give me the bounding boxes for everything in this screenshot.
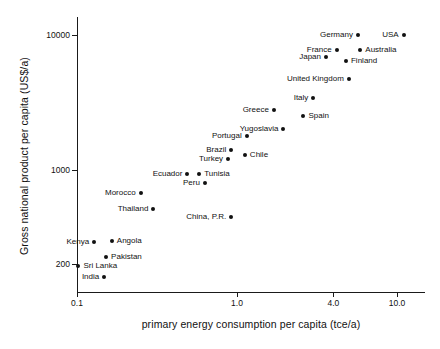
data-point[interactable] bbox=[76, 264, 80, 268]
data-point-label: China, P.R. bbox=[186, 213, 226, 221]
x-axis-title: primary energy consumption per capita (t… bbox=[77, 318, 425, 330]
plot-area: 100001000200 0.11.04.010.0 USAGermanyAus… bbox=[77, 17, 425, 292]
data-point[interactable] bbox=[311, 96, 315, 100]
data-point[interactable] bbox=[197, 172, 201, 176]
data-point-label: Sri Lanka bbox=[83, 262, 117, 270]
data-point-label: Angola bbox=[117, 237, 142, 245]
y-tick-mark bbox=[72, 170, 78, 171]
y-tick-mark bbox=[72, 35, 78, 36]
data-point-label: Kenya bbox=[66, 238, 89, 246]
x-axis-line bbox=[77, 292, 425, 293]
scatter-chart-figure: 100001000200 0.11.04.010.0 USAGermanyAus… bbox=[0, 0, 440, 349]
data-point[interactable] bbox=[110, 239, 114, 243]
y-tick-label: 200 bbox=[56, 260, 70, 269]
data-point[interactable] bbox=[344, 59, 348, 63]
data-point[interactable] bbox=[301, 114, 305, 118]
data-point[interactable] bbox=[347, 77, 351, 81]
data-point-label: Peru bbox=[183, 179, 200, 187]
data-point[interactable] bbox=[402, 33, 406, 37]
data-point-label: Tunisia bbox=[204, 170, 230, 178]
data-point-label: Brazil bbox=[206, 146, 226, 154]
x-tick-label: 0.1 bbox=[71, 299, 83, 308]
data-point[interactable] bbox=[335, 48, 339, 52]
x-tick-label: 10.0 bbox=[389, 299, 406, 308]
y-tick-label: 1000 bbox=[51, 166, 70, 175]
data-point-label: Thailand bbox=[118, 205, 149, 213]
data-point-label: Australia bbox=[365, 46, 396, 54]
data-point-label: Yugoslavia bbox=[240, 125, 279, 133]
data-point-label: India bbox=[82, 273, 99, 281]
data-point[interactable] bbox=[104, 255, 108, 259]
data-point[interactable] bbox=[356, 33, 360, 37]
data-point-label: Italy bbox=[294, 94, 309, 102]
data-point[interactable] bbox=[226, 157, 230, 161]
data-point-label: USA bbox=[382, 31, 398, 39]
data-point-label: Ecuador bbox=[153, 170, 183, 178]
data-point[interactable] bbox=[185, 172, 189, 176]
data-point[interactable] bbox=[92, 240, 96, 244]
data-point[interactable] bbox=[245, 134, 249, 138]
data-point-label: Morocco bbox=[105, 189, 136, 197]
x-tick-label: 1.0 bbox=[231, 299, 243, 308]
data-point[interactable] bbox=[139, 191, 143, 195]
data-point-label: United Kingdom bbox=[287, 75, 344, 83]
data-point-label: Finland bbox=[351, 57, 377, 65]
data-point-label: Chile bbox=[250, 151, 268, 159]
data-point-label: Portugal bbox=[212, 132, 242, 140]
y-tick-label: 10000 bbox=[46, 31, 70, 40]
data-point[interactable] bbox=[324, 55, 328, 59]
x-tick-mark bbox=[77, 292, 78, 297]
data-point[interactable] bbox=[203, 181, 207, 185]
data-point-label: Spain bbox=[308, 112, 328, 120]
data-point-label: Germany bbox=[320, 31, 353, 39]
data-point[interactable] bbox=[229, 215, 233, 219]
data-point[interactable] bbox=[151, 207, 155, 211]
data-point[interactable] bbox=[102, 275, 106, 279]
data-point[interactable] bbox=[229, 148, 233, 152]
data-point[interactable] bbox=[272, 108, 276, 112]
data-point-label: Greece bbox=[243, 106, 269, 114]
data-point-label: Turkey bbox=[199, 155, 223, 163]
x-tick-label: 4.0 bbox=[327, 299, 339, 308]
x-tick-mark bbox=[237, 292, 238, 297]
data-point[interactable] bbox=[281, 127, 285, 131]
y-axis-title: Gross national product per capita (US$/a… bbox=[18, 11, 30, 301]
data-point[interactable] bbox=[358, 48, 362, 52]
x-tick-mark bbox=[333, 292, 334, 297]
data-point[interactable] bbox=[243, 153, 247, 157]
x-tick-mark bbox=[397, 292, 398, 297]
data-point-label: Japan bbox=[299, 53, 321, 61]
